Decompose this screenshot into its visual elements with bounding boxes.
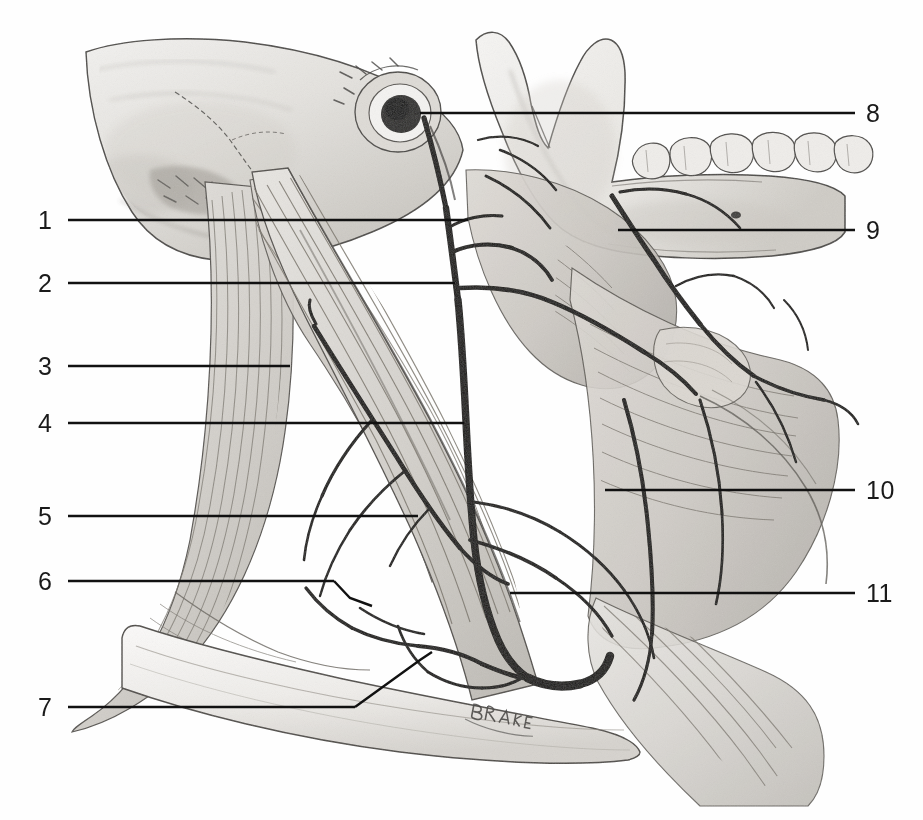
label-number-2: 2	[38, 271, 52, 296]
figure-page: 1234567891011	[0, 0, 923, 820]
label-number-7: 7	[38, 695, 52, 720]
label-number-1: 1	[38, 208, 52, 233]
label-number-4: 4	[38, 411, 52, 436]
label-number-6: 6	[38, 569, 52, 594]
label-number-3: 3	[38, 354, 52, 379]
label-number-11: 11	[866, 581, 893, 606]
label-number-8: 8	[866, 101, 880, 126]
illustration-body	[0, 0, 923, 820]
label-number-10: 10	[866, 478, 895, 503]
anatomical-illustration	[0, 0, 923, 820]
label-number-9: 9	[866, 218, 880, 243]
label-number-5: 5	[38, 504, 52, 529]
